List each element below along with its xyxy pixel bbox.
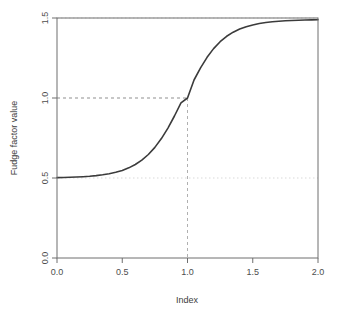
chart-canvas: 0.00.51.01.52.0 0.00.51.01.5 Index Fudge…: [0, 0, 352, 317]
x-axis-tick-label: 0.5: [116, 267, 129, 277]
y-axis-tick-label: 0.5: [40, 172, 50, 185]
x-axis-tick-label: 1.5: [246, 267, 259, 277]
x-axis-tick-label: 0.0: [51, 267, 64, 277]
y-axis-title: Fudge factor value: [9, 101, 19, 176]
x-axis-tick-label: 2.0: [312, 267, 325, 277]
plot-svg: 0.00.51.01.52.0 0.00.51.01.5 Index Fudge…: [0, 0, 352, 317]
y-axis-tick-label: 1.0: [40, 92, 50, 105]
y-axis-tick-label: 0.0: [40, 252, 50, 265]
y-axis-tick-label: 1.5: [40, 12, 50, 25]
x-axis-tick-label: 1.0: [181, 267, 194, 277]
x-axis-title: Index: [176, 295, 199, 305]
